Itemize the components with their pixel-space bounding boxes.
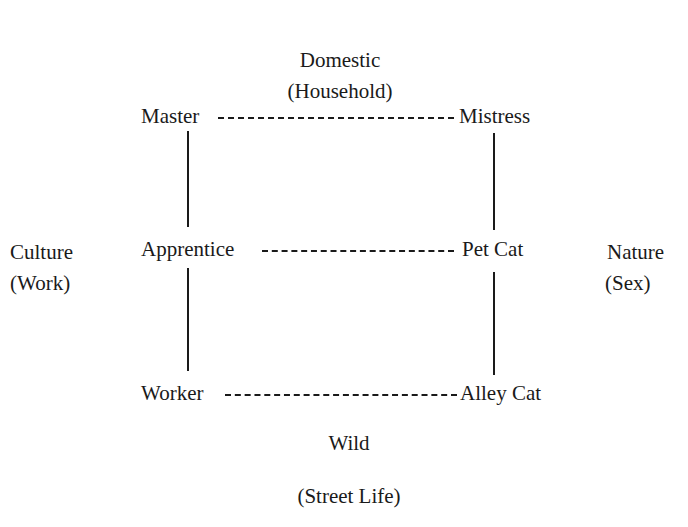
node-mistress: Mistress — [459, 104, 530, 128]
axis-label-street-life: (Street Life) — [297, 484, 400, 508]
edge-worker-alleycat — [225, 394, 457, 396]
node-pet-cat: Pet Cat — [462, 237, 523, 261]
axis-label-culture: Culture — [10, 240, 73, 264]
axis-label-sex: (Sex) — [605, 271, 651, 295]
node-alley-cat: Alley Cat — [460, 381, 541, 405]
axis-label-wild: Wild — [328, 431, 369, 455]
edge-apprentice-worker — [187, 268, 189, 371]
edge-mistress-petcat — [493, 133, 495, 230]
axis-label-work: (Work) — [10, 271, 70, 295]
axis-label-nature: Nature — [607, 240, 664, 264]
node-master: Master — [141, 104, 199, 128]
axis-label-household: (Household) — [288, 79, 393, 103]
edge-master-mistress — [218, 117, 454, 119]
edge-petcat-alleycat — [493, 272, 495, 375]
edge-master-apprentice — [187, 131, 189, 227]
edge-apprentice-petcat — [262, 250, 454, 252]
node-apprentice: Apprentice — [141, 237, 234, 261]
axis-label-domestic: Domestic — [300, 48, 380, 72]
node-worker: Worker — [141, 381, 203, 405]
